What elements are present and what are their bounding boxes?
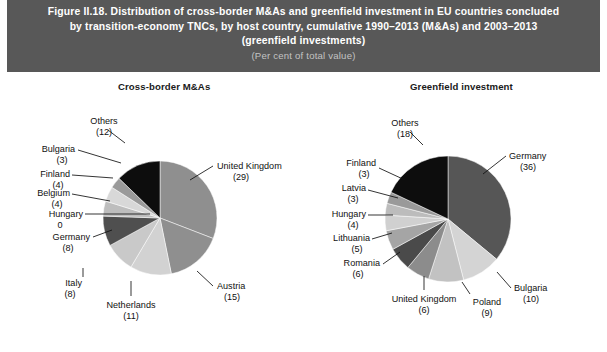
label-belgium-left: Belgium — [37, 188, 70, 198]
label-germany-right-value: (36) — [520, 162, 536, 172]
label-romania-right-value: (6) — [352, 269, 363, 279]
label-others-right: Others — [391, 118, 419, 128]
label-austria-left: Austria — [217, 281, 246, 291]
label-italy-left-value: (8) — [64, 289, 75, 299]
label-poland-right: Poland — [473, 297, 501, 307]
label-finland-left: Finland — [40, 169, 70, 179]
label-romania-right: Romania — [344, 258, 381, 268]
pie-chart-cross-border-mas — [103, 161, 217, 275]
label-united-kingdom-right: United Kingdom — [392, 294, 457, 304]
label-austria-left-value: (15) — [224, 292, 240, 302]
label-hungary-right-value: (4) — [347, 220, 358, 230]
label-germany-left: Germany — [53, 232, 91, 242]
label-finland-right-value: (3) — [358, 169, 369, 179]
pie-chart-greenfield-investment — [385, 156, 511, 282]
label-latvia-right-value: (3) — [347, 194, 358, 204]
label-lithuania-right: Lithuania — [333, 233, 371, 243]
label-others-left-value: (12) — [96, 127, 112, 137]
label-italy-left: Italy — [65, 278, 82, 288]
label-united-kingdom-left: United Kingdom — [217, 161, 282, 171]
label-others-right-value: (18) — [397, 129, 413, 139]
label-belgium-left-value: (4) — [51, 199, 62, 209]
label-bulgaria-right: Bulgaria — [514, 283, 548, 293]
label-lithuania-right-value: (5) — [351, 244, 362, 254]
label-latvia-right: Latvia — [342, 183, 367, 193]
label-bulgaria-left: Bulgaria — [42, 144, 76, 154]
label-poland-right-value: (9) — [481, 308, 492, 318]
label-united-kingdom-left-value: (29) — [233, 172, 249, 182]
label-netherlands-left-value: (11) — [123, 311, 139, 321]
label-germany-right: Germany — [509, 151, 547, 161]
figure-root: Figure II.18. Distribution of cross-bord… — [0, 0, 607, 352]
label-hungary-right: Hungary — [332, 209, 367, 219]
charts-svg: Others (12) Bulgaria (3) Finland (4) Bel… — [0, 0, 607, 352]
label-hungary-left-value: 0 — [57, 220, 62, 230]
label-netherlands-left: Netherlands — [106, 300, 155, 310]
label-others-left: Others — [90, 116, 118, 126]
label-bulgaria-right-value: (10) — [523, 294, 539, 304]
label-germany-left-value: (8) — [62, 243, 73, 253]
label-bulgaria-left-value: (3) — [56, 155, 67, 165]
label-hungary-left: Hungary — [49, 209, 84, 219]
label-united-kingdom-right-value: (6) — [418, 305, 429, 315]
label-finland-right: Finland — [346, 158, 376, 168]
